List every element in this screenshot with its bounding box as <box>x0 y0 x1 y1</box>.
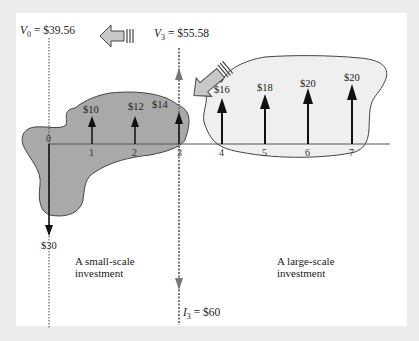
cash-flow-label: $12 <box>128 101 144 112</box>
large-scale-caption: A large-scale investment <box>277 255 335 279</box>
period-5: 5 <box>262 147 267 158</box>
outflow-arrow <box>45 225 53 236</box>
cash-flow-label: $16 <box>214 84 230 95</box>
period-3: 3 <box>177 147 182 158</box>
cash-flow-label: $18 <box>257 82 273 93</box>
period-4: 4 <box>219 147 224 158</box>
small-scale-blob <box>22 92 189 216</box>
period-0: 0 <box>46 133 51 144</box>
cash-flow-label: $20 <box>300 78 316 89</box>
v0-label: V0 = $39.56 <box>20 24 75 39</box>
period-1: 1 <box>89 147 94 158</box>
small-scale-caption: A small-scale investment <box>75 255 135 279</box>
period-6: 6 <box>305 147 310 158</box>
i3-arrowhead <box>175 278 183 290</box>
v3-label: V3 = $55.58 <box>154 27 209 42</box>
period-7: 7 <box>349 147 354 158</box>
period-2: 2 <box>132 147 137 158</box>
v3-arrowhead <box>175 68 183 80</box>
cash-flow-label: $10 <box>83 104 99 115</box>
cash-flow-label: $14 <box>152 99 168 110</box>
i3-label: I3 = $60 <box>183 306 220 321</box>
cash-flow-diagram <box>0 0 419 341</box>
left-block-arrow-icon <box>100 25 133 47</box>
outflow-label: $30 <box>41 240 57 251</box>
cash-flow-label: $20 <box>344 72 360 83</box>
